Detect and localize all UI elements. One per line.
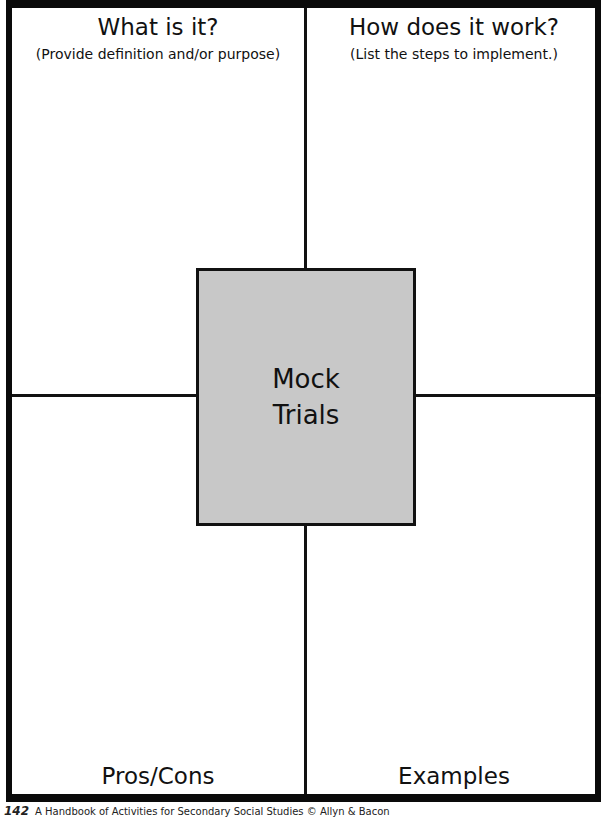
quadrant-title-how-does-it-work: How does it work? <box>307 14 601 40</box>
quadrant-title-examples: Examples <box>307 763 601 789</box>
footer-credit: A Handbook of Activities for Secondary S… <box>35 806 390 817</box>
quadrant-title-what-is-it: What is it? <box>12 14 304 40</box>
horizontal-divider-left <box>12 394 196 397</box>
quadrant-title-pros-cons: Pros/Cons <box>12 763 304 789</box>
page-footer: 142A Handbook of Activities for Secondar… <box>4 804 390 817</box>
quadrant-subtitle-how-does-it-work: (List the steps to implement.) <box>307 46 601 62</box>
page-number: 142 <box>4 804 29 817</box>
horizontal-divider-right <box>416 394 601 397</box>
center-topic-line1: Mock <box>272 361 340 397</box>
center-topic-box: Mock Trials <box>196 268 416 526</box>
quadrant-subtitle-what-is-it: (Provide definition and/or purpose) <box>12 46 304 62</box>
vertical-divider-bottom <box>304 526 307 794</box>
center-topic-line2: Trials <box>273 397 340 433</box>
